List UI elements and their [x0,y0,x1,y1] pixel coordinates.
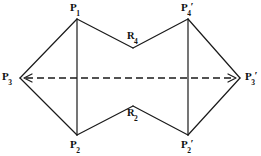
vertex-label-p3-prime-mark: ′ [254,69,257,81]
vertex-label-p4-prime-mark: ′ [190,0,193,12]
vertex-label-p1-sub: 1 [76,9,80,18]
vertex-label-p4-prime: P4′ [181,2,195,16]
edge-label-r2-sub: 2 [134,114,138,123]
edge-label-r4: R4 [127,31,138,44]
edge-p4prime-p3prime [188,19,240,78]
edge-p2-p3 [20,78,77,135]
vertex-label-p3-sub: 3 [8,78,12,87]
diagram-svg [0,0,261,156]
edge-p3prime-p2prime [188,78,240,135]
vertex-label-p3-prime: P3′ [245,71,259,85]
edge-p1-r4 [77,19,133,48]
vertex-label-p2-sub: 2 [76,146,80,155]
edge-r2-p2 [77,106,133,135]
vertex-label-p2: P2 [70,139,80,153]
edge-p2prime-r2 [133,106,188,135]
vertex-label-p1: P1 [70,2,80,16]
edge-label-r4-sub: 4 [134,37,138,46]
figure-root: P1 P2 P3 P3′ P4′ P2′ R4 R2 [0,0,261,156]
vertex-label-p3: P3 [2,71,12,85]
vertex-label-p2-prime-mark: ′ [190,137,193,149]
edge-r4-p4prime [133,19,188,48]
edge-label-r2: R2 [127,108,138,121]
edge-p3-p1 [20,19,77,78]
vertex-label-p2-prime: P2′ [181,139,195,153]
